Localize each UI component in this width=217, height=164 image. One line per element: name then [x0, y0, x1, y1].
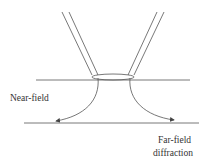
diffraction-arrow-left — [56, 78, 98, 121]
near-field-label: Near-field — [10, 93, 49, 104]
far-field-label: Far-field — [158, 135, 191, 146]
probe-right-outer-wall — [134, 12, 164, 75]
probe-left-outer-wall — [62, 12, 92, 75]
diffraction-label: diffraction — [153, 148, 193, 159]
probe-left-inner-wall — [69, 12, 98, 75]
probe-right-inner-wall — [128, 12, 157, 75]
diffraction-arrow-right — [130, 78, 174, 120]
